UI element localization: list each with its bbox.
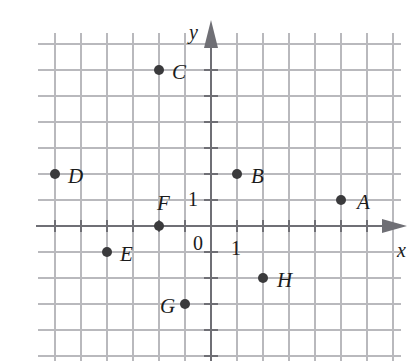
x-tick-label-1: 1 xyxy=(231,238,241,258)
point-label-g: G xyxy=(160,296,175,317)
point-label-b: B xyxy=(251,166,264,187)
point-label-h: H xyxy=(277,270,292,291)
origin-tick-label: 0 xyxy=(193,233,203,253)
y-tick-label-1: 1 xyxy=(188,189,198,209)
data-point-a xyxy=(336,195,346,205)
data-points xyxy=(50,65,346,309)
x-axis-arrowhead xyxy=(382,219,407,233)
point-label-c: C xyxy=(172,62,186,83)
data-point-g xyxy=(180,299,190,309)
point-label-a: A xyxy=(357,192,370,213)
coordinate-plane-figure: A B C D E F G H x y 0 1 1 xyxy=(0,0,419,361)
data-point-f xyxy=(154,221,164,231)
data-point-c xyxy=(154,65,164,75)
axis-lines xyxy=(36,20,407,361)
data-point-d xyxy=(50,169,60,179)
point-label-e: E xyxy=(120,244,133,265)
y-axis-arrowhead xyxy=(204,20,218,48)
point-label-f: F xyxy=(157,193,170,214)
y-axis-label: y xyxy=(189,22,198,42)
coordinate-plane-canvas xyxy=(0,0,419,361)
grid-lines xyxy=(38,33,401,361)
data-point-e xyxy=(102,247,112,257)
point-label-d: D xyxy=(68,166,83,187)
data-point-h xyxy=(258,273,268,283)
x-axis-label: x xyxy=(397,240,406,260)
data-point-b xyxy=(232,169,242,179)
